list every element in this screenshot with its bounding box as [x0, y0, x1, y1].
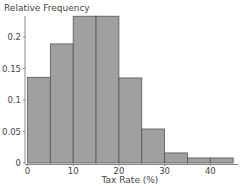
y-axis-label: Relative Frequency: [4, 3, 90, 13]
histogram-bar: [119, 78, 142, 163]
histogram-bar: [96, 16, 119, 163]
x-tick-label: 30: [159, 166, 170, 176]
y-tick-label: 0.15: [2, 64, 21, 74]
y-tick-label: 0.1: [7, 95, 21, 105]
y-axis-ticks: 00.050.10.150.2: [2, 32, 25, 168]
y-tick-label: 0.05: [2, 127, 21, 137]
y-tick-label: 0.2: [7, 32, 21, 42]
histogram-bars: [28, 16, 234, 163]
x-tick-label: 10: [68, 166, 79, 176]
histogram-chart: Relative Frequency 00.050.10.150.2 01020…: [0, 0, 243, 187]
histogram-bar: [50, 44, 73, 163]
histogram-bar: [28, 77, 51, 163]
y-tick-label: 0: [16, 158, 21, 168]
histogram-bar: [210, 158, 233, 163]
histogram-bar: [187, 158, 210, 163]
x-axis-label: Tax Rate (%): [101, 175, 159, 185]
histogram-bar: [142, 129, 165, 163]
x-tick-label: 40: [205, 166, 216, 176]
x-tick-label: 0: [25, 166, 30, 176]
histogram-bar: [73, 16, 96, 163]
histogram-bar: [165, 153, 188, 163]
